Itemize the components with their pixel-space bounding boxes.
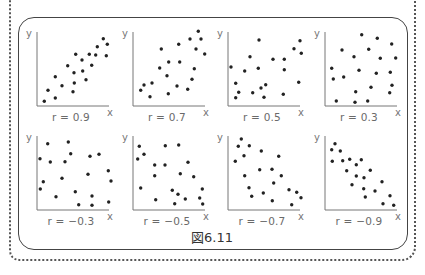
data-point (350, 183, 353, 186)
data-point (60, 84, 63, 87)
data-point (66, 64, 69, 67)
data-point (234, 96, 237, 99)
data-point (84, 78, 87, 81)
scatter-plot: yxr = 0.5 (216, 30, 306, 130)
data-point (177, 43, 180, 46)
data-point (354, 90, 357, 93)
data-point (167, 60, 170, 63)
y-axis-label: y (217, 133, 223, 143)
data-point (106, 43, 109, 46)
data-point (201, 187, 204, 190)
data-point (102, 37, 105, 40)
data-point (154, 198, 157, 201)
data-point (96, 45, 99, 48)
data-point (339, 149, 342, 152)
data-point (257, 38, 260, 41)
data-point (234, 82, 237, 85)
data-point (107, 200, 110, 203)
data-point (237, 145, 240, 148)
data-point (71, 90, 74, 93)
data-point (188, 37, 191, 40)
scatter-canvas (25, 30, 117, 112)
data-point (366, 99, 369, 102)
correlation-label: r = 0.5 (222, 112, 302, 123)
axes-lines (133, 136, 205, 210)
data-point (243, 69, 246, 72)
data-point (369, 86, 372, 89)
data-point (362, 187, 365, 190)
data-point (136, 157, 139, 160)
y-axis-label: y (217, 29, 223, 39)
data-point (173, 202, 176, 205)
data-point (247, 186, 250, 189)
data-point (271, 199, 274, 202)
data-point (342, 75, 345, 78)
data-point (46, 89, 49, 92)
correlation-label: r = −0.5 (127, 216, 207, 227)
data-point (355, 174, 358, 177)
data-point (330, 148, 333, 151)
data-point (74, 190, 77, 193)
data-point (43, 100, 46, 103)
correlation-label: r = 0.9 (31, 112, 111, 123)
axes-lines (228, 32, 300, 106)
data-point (295, 191, 298, 194)
data-point (299, 196, 302, 199)
data-point (139, 89, 142, 92)
data-point (198, 196, 201, 199)
data-point (67, 140, 70, 143)
data-point (46, 142, 49, 145)
data-point (176, 193, 179, 196)
data-point (242, 154, 245, 157)
data-point (74, 53, 77, 56)
data-point (60, 177, 63, 180)
data-point (42, 180, 45, 183)
data-point (77, 203, 80, 206)
data-point (153, 174, 156, 177)
data-point (237, 91, 240, 94)
data-point (392, 204, 395, 207)
data-point (280, 174, 283, 177)
scatter-canvas (121, 30, 213, 112)
data-point (248, 55, 251, 58)
data-point (364, 195, 367, 198)
y-axis-label: y (122, 133, 128, 143)
axes-lines (325, 32, 397, 106)
data-point (171, 189, 174, 192)
data-point (331, 160, 334, 163)
data-point (107, 169, 110, 172)
data-point (375, 72, 378, 75)
data-point (178, 60, 181, 63)
data-point (69, 152, 72, 155)
data-point (177, 143, 180, 146)
data-point (258, 168, 261, 171)
data-point (300, 52, 303, 55)
data-point (229, 65, 232, 68)
data-point (63, 160, 66, 163)
data-point (335, 99, 338, 102)
data-point (39, 187, 42, 190)
data-point (250, 195, 253, 198)
scatter-canvas (313, 30, 405, 112)
data-point (192, 175, 195, 178)
data-point (150, 81, 153, 84)
scatter-canvas (216, 30, 308, 112)
scatter-plot: yxr = 0.3 (313, 30, 403, 130)
data-point (297, 81, 300, 84)
data-point (292, 47, 295, 50)
data-point (341, 159, 344, 162)
data-point (270, 168, 273, 171)
data-point (380, 180, 383, 183)
data-point (290, 203, 293, 206)
data-point (94, 53, 97, 56)
data-point (160, 47, 163, 50)
data-point (97, 153, 100, 156)
data-point (190, 78, 193, 81)
data-point (362, 176, 365, 179)
data-point (389, 71, 392, 74)
data-point (388, 91, 391, 94)
data-point (390, 84, 393, 87)
data-point (88, 155, 91, 158)
scatter-canvas (121, 134, 213, 216)
data-point (49, 160, 52, 163)
